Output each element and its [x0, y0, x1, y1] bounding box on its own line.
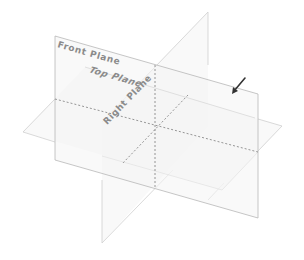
- front-plane[interactable]: [55, 36, 258, 218]
- planes-diagram: Front Plane Top Plane Right Plane: [0, 0, 304, 260]
